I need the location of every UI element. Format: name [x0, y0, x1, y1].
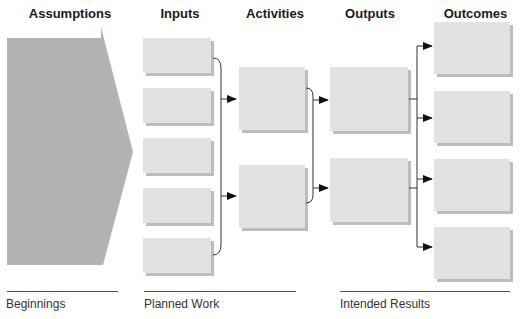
intended-results-rule — [340, 291, 510, 292]
footer-beginnings: Beginnings — [6, 297, 65, 311]
footer-planned-work: Planned Work — [144, 297, 219, 311]
footer-intended-results: Intended Results — [340, 297, 430, 311]
connectors — [0, 0, 520, 319]
planned-work-rule — [144, 291, 296, 292]
beginnings-rule — [7, 291, 118, 292]
